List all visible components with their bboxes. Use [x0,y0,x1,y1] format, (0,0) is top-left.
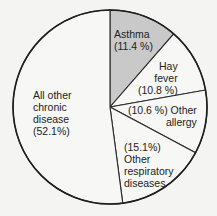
label-other-allergy-l2: allergy [128,116,197,128]
label-other-allergy-l1: (10.6 %) Other [128,104,197,116]
label-asthma: Asthma (11.4 %) [114,28,153,52]
label-other-resp-l4: diseases [124,177,174,189]
label-other-respiratory: (15.1%) Other respiratory diseases [124,141,174,189]
label-other-allergy: (10.6 %) Other allergy [128,104,197,128]
label-other-chronic-l2: chronic [33,101,72,113]
label-other-chronic-l1: All other [33,89,72,101]
label-other-chronic: All other chronic disease (52.1%) [33,89,72,137]
label-other-chronic-l3: disease [33,113,72,125]
label-hay-fever: Hay fever (10.8 %) [138,60,178,96]
label-other-resp-l3: respiratory [124,165,174,177]
label-asthma-value: (11.4 %) [114,40,153,52]
label-asthma-name: Asthma [114,28,153,40]
label-other-resp-l2: Other [124,153,174,165]
label-hay-fever-l1: Hay [138,60,178,72]
label-other-chronic-value: (52.1%) [33,125,72,137]
label-other-resp-value: (15.1%) [124,141,174,153]
label-hay-fever-l2: fever [138,72,178,84]
label-hay-fever-value: (10.8 %) [138,84,178,96]
